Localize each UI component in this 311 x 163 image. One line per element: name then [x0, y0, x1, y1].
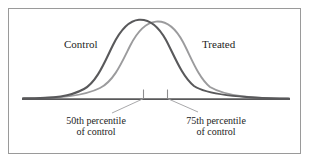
annotation-50th-percentile-line1: 50th percentile — [66, 115, 126, 126]
annotation-50th-percentile: 50th percentile of control — [50, 115, 142, 137]
curve-treated — [24, 22, 288, 99]
leader-line-50th-percentile — [112, 99, 143, 113]
annotation-50th-percentile-line2: of control — [50, 126, 142, 137]
leader-line-75th-percentile — [168, 99, 198, 112]
distribution-plot — [0, 0, 311, 163]
annotation-75th-percentile: 75th percentile of control — [168, 115, 264, 137]
curve-label-treated: Treated — [202, 38, 235, 50]
figure-root: Control Treated 50th percentile of contr… — [0, 0, 311, 163]
curve-control — [23, 20, 289, 99]
annotation-75th-percentile-line1: 75th percentile — [186, 115, 246, 126]
curve-label-control: Control — [64, 38, 98, 50]
annotation-75th-percentile-line2: of control — [168, 126, 264, 137]
